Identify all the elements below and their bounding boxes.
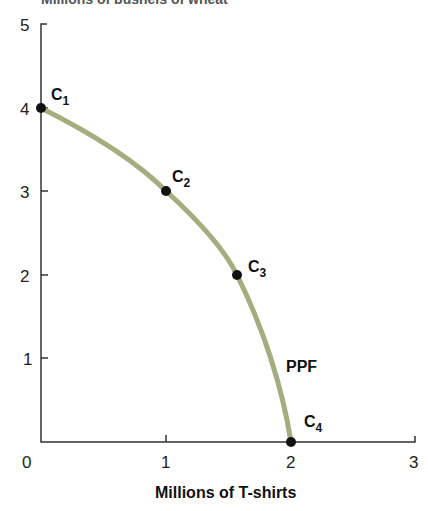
axis-lines — [41, 24, 415, 442]
ppf-curve — [41, 108, 291, 442]
y-tick-label-4: 4 — [20, 100, 29, 119]
x-tick-label-2: 2 — [286, 453, 295, 472]
label-c2: C2 — [172, 168, 191, 190]
label-c4: C4 — [304, 413, 323, 435]
x-tick-label-3: 3 — [409, 453, 418, 472]
y-tick-label-3: 3 — [20, 183, 29, 202]
ppf-label: PPF — [286, 358, 317, 375]
point-c3 — [232, 270, 242, 280]
y-axis-title: Millions of bushels of wheat — [41, 0, 228, 7]
label-c3: C3 — [248, 258, 267, 280]
ppf-chart: Millions of bushels of wheat 5 4 3 2 1 0… — [0, 0, 428, 511]
label-c1: C1 — [51, 86, 70, 108]
point-c4 — [286, 437, 296, 447]
x-tick-label-0: 0 — [22, 453, 31, 472]
axes — [41, 24, 415, 442]
y-tick-label-2: 2 — [20, 267, 29, 286]
point-c2 — [161, 186, 171, 196]
y-tick-label-1: 1 — [23, 350, 32, 369]
x-axis-title: Millions of T-shirts — [155, 484, 296, 501]
x-tick-label-1: 1 — [161, 453, 170, 472]
y-tick-label-5: 5 — [20, 16, 29, 35]
point-c1 — [36, 103, 46, 113]
